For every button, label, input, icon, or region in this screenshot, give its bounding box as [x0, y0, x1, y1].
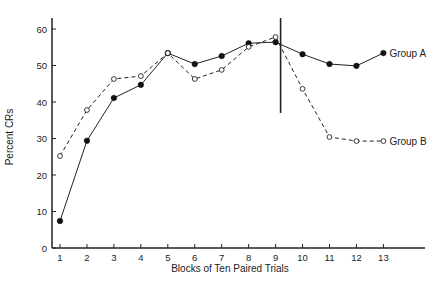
x-axis-title: Blocks of Ten Paired Trials — [171, 263, 289, 274]
x-tick-label: 2 — [84, 252, 89, 263]
y-tick-label: 50 — [36, 60, 47, 71]
data-point-group-a — [354, 63, 360, 69]
x-tick-label: 9 — [273, 252, 278, 263]
data-point-group-a — [327, 61, 333, 67]
x-tick-label: 4 — [138, 252, 143, 263]
y-tick-label: 10 — [36, 206, 47, 217]
x-ticks: 12345678910111213 — [57, 244, 388, 263]
data-point-group-a — [192, 61, 198, 67]
chart: 0102030405060 12345678910111213 Group AG… — [0, 0, 442, 288]
data-point-group-b — [85, 108, 90, 113]
y-tick-label: 30 — [36, 133, 47, 144]
legend-label-group-a: Group A — [389, 48, 426, 59]
legend: Group AGroup B — [389, 48, 427, 147]
x-tick-label: 10 — [297, 252, 308, 263]
data-point-group-b — [273, 35, 278, 40]
y-axis-title: Percent CRs — [4, 109, 15, 166]
data-point-group-b — [327, 135, 332, 140]
data-point-group-b — [354, 139, 359, 144]
x-tick-label: 7 — [219, 252, 224, 263]
data-point-group-a — [111, 95, 117, 101]
x-tick-label: 13 — [378, 252, 389, 263]
series-group-a — [57, 39, 386, 223]
data-point-group-b — [138, 74, 143, 79]
data-point-group-b — [219, 67, 224, 72]
data-point-group-b — [192, 77, 197, 82]
y-ticks: 0102030405060 — [36, 24, 56, 254]
series-group — [57, 35, 386, 224]
data-point-group-a — [300, 51, 306, 57]
data-point-group-b — [381, 139, 386, 144]
data-point-group-a — [138, 82, 144, 88]
data-point-group-a — [84, 138, 90, 144]
data-point-group-a — [381, 50, 387, 56]
y-tick-label: 60 — [36, 24, 47, 35]
y-tick-label: 40 — [36, 97, 47, 108]
data-point-group-a — [57, 218, 63, 224]
axes — [52, 18, 425, 248]
x-tick-label: 3 — [111, 252, 116, 263]
x-tick-label: 12 — [351, 252, 362, 263]
data-point-group-b — [246, 44, 251, 49]
data-point-group-a — [219, 53, 225, 59]
data-point-group-b — [165, 51, 170, 56]
data-point-group-b — [58, 154, 63, 159]
legend-label-group-b: Group B — [389, 136, 427, 147]
x-tick-label: 8 — [246, 252, 251, 263]
data-point-group-b — [112, 77, 117, 82]
x-tick-label: 5 — [165, 252, 170, 263]
x-tick-label: 11 — [325, 252, 335, 263]
x-tick-label: 6 — [192, 252, 197, 263]
data-point-group-b — [300, 86, 305, 91]
y-tick-label: 20 — [36, 170, 47, 181]
x-tick-label: 1 — [57, 252, 62, 263]
y-tick-label: 0 — [42, 243, 47, 254]
